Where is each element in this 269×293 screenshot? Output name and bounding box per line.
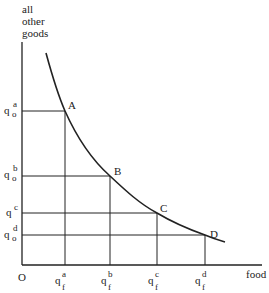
svg-text:o: o xyxy=(12,233,17,243)
svg-text:f: f xyxy=(108,282,111,292)
y-axis-label-line-1: all xyxy=(22,3,33,15)
origin-label: O xyxy=(18,271,26,283)
x-axis-label: food xyxy=(246,268,267,280)
svg-text:q: q xyxy=(4,228,10,240)
y-tick-label-c: q c xyxy=(6,202,18,218)
y-tick-label-b: q o b xyxy=(4,163,18,183)
svg-text:q: q xyxy=(148,274,154,286)
svg-text:q: q xyxy=(4,168,10,180)
svg-text:d: d xyxy=(202,269,207,279)
svg-text:q: q xyxy=(55,274,61,286)
svg-text:q: q xyxy=(4,104,10,116)
point-label-c: C xyxy=(160,202,167,214)
point-label-a: A xyxy=(68,99,76,111)
y-tick-label-d: q o d xyxy=(4,223,18,243)
svg-text:b: b xyxy=(108,269,113,279)
svg-text:o: o xyxy=(12,173,17,183)
svg-text:a: a xyxy=(62,269,66,279)
y-tick-label-a: q o a xyxy=(4,99,17,119)
y-axis-label-line-3: goods xyxy=(22,27,48,39)
svg-text:f: f xyxy=(155,282,158,292)
svg-text:b: b xyxy=(13,163,18,173)
svg-text:f: f xyxy=(202,282,205,292)
svg-text:o: o xyxy=(12,109,17,119)
indifference-curve-diagram: all other goods A B C D q o a q o b q c … xyxy=(0,0,269,293)
svg-text:q: q xyxy=(195,274,201,286)
svg-text:c: c xyxy=(155,269,159,279)
x-tick-label-d: q f d xyxy=(195,269,207,292)
y-axis-label-line-2: other xyxy=(22,15,45,27)
guide-lines xyxy=(22,111,205,265)
x-tick-label-a: q f a xyxy=(55,269,66,292)
point-label-d: D xyxy=(210,228,218,240)
indifference-curve xyxy=(46,53,225,242)
svg-text:q: q xyxy=(6,206,12,218)
point-label-b: B xyxy=(114,165,121,177)
svg-text:a: a xyxy=(13,99,17,109)
svg-text:d: d xyxy=(13,223,18,233)
svg-text:q: q xyxy=(101,274,107,286)
svg-text:f: f xyxy=(62,282,65,292)
x-tick-label-b: q f b xyxy=(101,269,113,292)
svg-text:c: c xyxy=(14,202,18,212)
x-tick-label-c: q f c xyxy=(148,269,159,292)
